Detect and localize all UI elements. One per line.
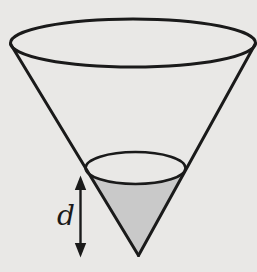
cone-diagram-svg: d <box>0 0 257 272</box>
cone-diagram: d <box>0 0 257 272</box>
depth-label: d <box>57 199 75 232</box>
